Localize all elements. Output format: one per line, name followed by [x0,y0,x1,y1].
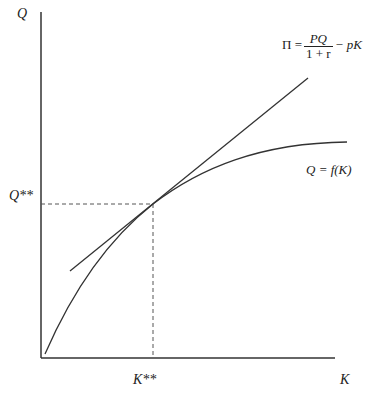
y-axis-label: Q [17,6,27,22]
isoprofit-rhs: − pK [335,37,362,52]
isoprofit-numerator: PQ [304,32,333,47]
curve-label: Q = f(K) [306,162,352,178]
isoprofit-fraction: PQ1 + r [304,32,333,61]
x-axis-label: K [340,372,349,388]
isoprofit-denominator: 1 + r [304,47,333,61]
production-curve [45,142,347,354]
q-star-label: Q** [9,188,33,204]
isoprofit-line [70,78,308,271]
k-star-label: K** [133,372,156,388]
isoprofit-lhs: Π = [282,37,302,52]
isoprofit-label: Π =PQ1 + r− pK [282,32,362,61]
